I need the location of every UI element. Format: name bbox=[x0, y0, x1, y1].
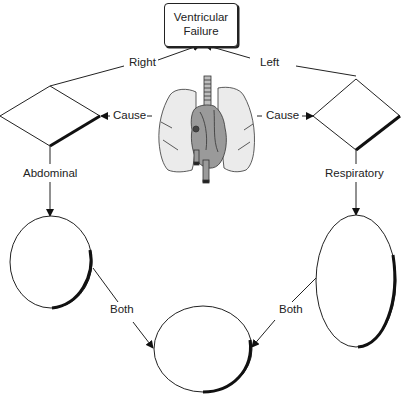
left-ellipse bbox=[10, 216, 92, 308]
right-ellipse bbox=[316, 215, 396, 347]
ventricular-failure-box: Ventricular Failure bbox=[164, 3, 238, 47]
connector-left-to-title bbox=[205, 45, 356, 76]
label-both-left: Both bbox=[109, 304, 135, 316]
heart-and-lungs-illustration bbox=[159, 76, 255, 183]
diagram-canvas bbox=[0, 0, 406, 397]
label-right: Right bbox=[128, 57, 157, 69]
bottom-ellipse bbox=[154, 306, 252, 392]
title-line-2: Failure bbox=[183, 25, 218, 39]
connector-right-to-title bbox=[50, 45, 200, 86]
right-diamond bbox=[0, 86, 100, 146]
label-left: Left bbox=[259, 57, 280, 69]
label-cause-left: Cause bbox=[112, 110, 147, 122]
label-both-right: Both bbox=[278, 304, 304, 316]
title-line-1: Ventricular bbox=[174, 11, 228, 25]
label-cause-right: Cause bbox=[265, 110, 300, 122]
left-diamond bbox=[313, 79, 400, 150]
label-respiratory: Respiratory bbox=[324, 168, 385, 180]
label-abdominal: Abdominal bbox=[22, 168, 78, 180]
